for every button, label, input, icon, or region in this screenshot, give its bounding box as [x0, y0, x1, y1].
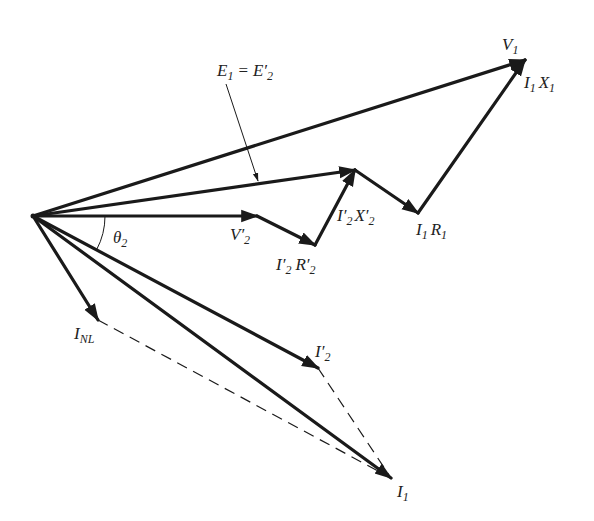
phasor-V1 [33, 60, 525, 216]
annotations [31, 84, 259, 250]
dashed-I2p-to-I1 [318, 368, 391, 478]
phasor-I1X1 [418, 60, 525, 213]
dashed-INL-to-I1 [98, 320, 391, 478]
label-I1X1: I1X1 [523, 73, 555, 95]
dashed-construction-lines [98, 320, 391, 478]
label-I2prime: I′2 [314, 342, 330, 364]
label-theta2: θ2 [113, 228, 127, 250]
phasor-E1 [33, 170, 355, 216]
label-I1: I1 [396, 482, 409, 504]
E1-pointer-arrow [226, 84, 258, 181]
phasor-I1 [33, 216, 391, 478]
theta2-angle-arc [97, 216, 105, 250]
label-V2prime: V′2 [230, 225, 250, 247]
label-I1R1: I1R1 [415, 220, 447, 242]
phasor-I2R2p [257, 216, 315, 245]
label-E1-equals-E2prime: E1=E′2 [216, 61, 273, 83]
phasor-diagram: V1 I1X1 E1=E′2 V′2 I′2R′2 I′2X′2 I1R1 θ2… [0, 0, 594, 521]
label-I2prime-X2prime: I′2X′2 [336, 206, 375, 228]
label-I2prime-R2prime: I′2R′2 [275, 255, 316, 277]
origin-point [31, 214, 36, 219]
label-V1: V1 [502, 35, 518, 57]
phasor-I2p [33, 216, 318, 368]
label-INL: INL [73, 324, 95, 346]
phasor-I2X2p [315, 170, 355, 245]
